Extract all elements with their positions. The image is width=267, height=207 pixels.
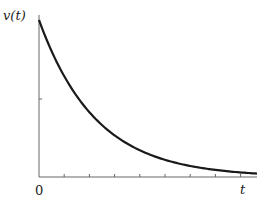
origin-label: 0	[35, 183, 43, 198]
x-axis-label: t	[240, 182, 245, 197]
y-axis-label: v(t)	[3, 8, 26, 23]
chart-canvas	[0, 0, 267, 207]
decay-curve	[39, 20, 257, 174]
